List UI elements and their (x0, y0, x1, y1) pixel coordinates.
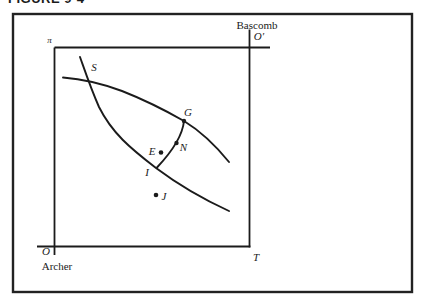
point-dot-e (159, 150, 164, 155)
figure-page: FIGURE 9-4 π O′ O T Bascomb Archer S G N… (0, 0, 424, 305)
point-label-o: O (42, 246, 50, 257)
point-label-g: G (184, 107, 192, 118)
archer-indifference-curve (80, 57, 229, 211)
point-label-o-prime: O′ (254, 31, 264, 42)
point-dot-j (154, 193, 159, 198)
point-label-e: E (149, 146, 156, 157)
point-label-i: I (145, 167, 149, 178)
bascomb-indifference-curve (63, 78, 229, 163)
point-label-pi: π (47, 36, 52, 45)
point-label-j: J (162, 191, 167, 202)
outer-frame (13, 14, 412, 292)
point-dot-n (174, 141, 178, 145)
trader-label-archer: Archer (42, 261, 73, 272)
point-label-s: S (91, 62, 97, 73)
point-label-t: T (253, 252, 259, 263)
point-dot-g (182, 119, 186, 123)
point-label-n: N (180, 141, 187, 152)
trader-label-bascomb: Bascomb (237, 20, 278, 31)
